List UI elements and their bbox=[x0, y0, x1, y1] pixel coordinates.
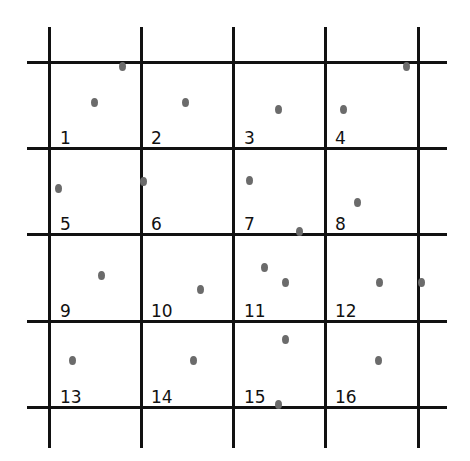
cell-label: 16 bbox=[335, 389, 357, 406]
cell-label: 4 bbox=[335, 130, 346, 147]
cell-label: 1 bbox=[60, 130, 71, 147]
cell-label: 10 bbox=[151, 303, 173, 320]
data-point bbox=[261, 263, 268, 272]
grid-horizontal-line bbox=[27, 233, 447, 236]
data-point bbox=[375, 356, 382, 365]
grid-vertical-line bbox=[324, 27, 327, 448]
cell-label: 7 bbox=[244, 216, 255, 233]
cell-label: 3 bbox=[244, 130, 255, 147]
grid-diagram: 12345678910111213141516 bbox=[0, 0, 470, 461]
data-point bbox=[91, 98, 98, 107]
data-point bbox=[69, 356, 76, 365]
grid-horizontal-line bbox=[27, 147, 447, 150]
cell-label: 11 bbox=[244, 303, 266, 320]
grid-horizontal-line bbox=[27, 61, 447, 64]
grid-vertical-line bbox=[232, 27, 235, 448]
data-point bbox=[282, 278, 289, 287]
data-point bbox=[340, 105, 347, 114]
grid-vertical-line bbox=[48, 27, 51, 448]
cell-label: 9 bbox=[60, 303, 71, 320]
grid-horizontal-line bbox=[27, 406, 447, 409]
cell-label: 15 bbox=[244, 389, 266, 406]
data-point bbox=[282, 335, 289, 344]
data-point bbox=[190, 356, 197, 365]
data-point bbox=[275, 105, 282, 114]
data-point bbox=[197, 285, 204, 294]
data-point bbox=[98, 271, 105, 280]
data-point bbox=[296, 227, 303, 236]
data-point bbox=[376, 278, 383, 287]
data-point bbox=[275, 400, 282, 409]
data-point bbox=[403, 62, 410, 71]
cell-label: 5 bbox=[60, 216, 71, 233]
cell-label: 14 bbox=[151, 389, 173, 406]
data-point bbox=[246, 176, 253, 185]
grid-vertical-line bbox=[417, 27, 420, 448]
data-point bbox=[182, 98, 189, 107]
cell-label: 12 bbox=[335, 303, 357, 320]
data-point bbox=[119, 62, 126, 71]
cell-label: 6 bbox=[151, 216, 162, 233]
cell-label: 8 bbox=[335, 216, 346, 233]
data-point bbox=[140, 177, 147, 186]
cell-label: 13 bbox=[60, 389, 82, 406]
cell-label: 2 bbox=[151, 130, 162, 147]
grid-vertical-line bbox=[140, 27, 143, 448]
grid-horizontal-line bbox=[27, 320, 447, 323]
data-point bbox=[354, 198, 361, 207]
data-point bbox=[55, 184, 62, 193]
data-point bbox=[418, 278, 425, 287]
